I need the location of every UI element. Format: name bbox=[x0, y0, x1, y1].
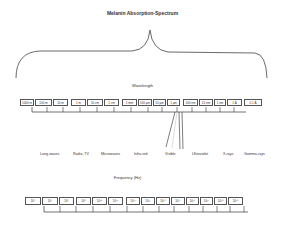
frequency-cell: 10¹³ bbox=[141, 197, 155, 205]
band-label: Radio, TV bbox=[73, 152, 89, 156]
frequency-cell: 10¹⁸ bbox=[214, 197, 227, 205]
frequency-cell: 10⁸ bbox=[76, 197, 91, 205]
band-label: Ultraviolet bbox=[192, 152, 208, 156]
wavelength-scale: 1000 m 100 m 10 m 1 m 10 cm 1 cm 1 mm 10… bbox=[20, 99, 263, 106]
band-label: X-rays bbox=[223, 152, 233, 156]
wavelength-cell: 0.1 Å bbox=[244, 99, 262, 106]
frequency-cell: 10¹¹ bbox=[108, 197, 123, 205]
frequency-cell: 10⁴ bbox=[25, 197, 41, 205]
band-label: Visible bbox=[165, 152, 176, 156]
brace-and-connectors bbox=[0, 0, 285, 230]
wavelength-cell: 1 Å bbox=[227, 99, 242, 106]
frequency-label: Frequency (Hz) bbox=[0, 175, 255, 180]
wavelength-cell: 1 μm bbox=[167, 99, 180, 106]
wavelength-cell: 1000 m bbox=[20, 99, 34, 106]
wavelength-cell: 1 m bbox=[71, 99, 86, 106]
frequency-cell: 10¹⁹ bbox=[228, 197, 243, 205]
frequency-cell: 10¹⁰ bbox=[92, 197, 107, 205]
wavelength-cell: 1 mm bbox=[122, 99, 137, 106]
frequency-cell: 10⁵ bbox=[42, 197, 58, 205]
frequency-cell: 10⁶ bbox=[59, 197, 74, 205]
wavelength-cell: 1 nm bbox=[214, 99, 226, 106]
frequency-cell: 10¹⁵ bbox=[171, 197, 185, 205]
frequency-cell: 10¹⁶ bbox=[186, 197, 199, 205]
wavelength-cell: 1 cm bbox=[104, 99, 119, 106]
frequency-cell: 10¹² bbox=[126, 197, 140, 205]
band-label: Infra-red bbox=[134, 152, 148, 156]
wavelength-cell: 10 cm bbox=[87, 99, 103, 106]
wavelength-cell: 10 nm bbox=[199, 99, 213, 106]
diagram-title: Melanin Absorption-Spectrum bbox=[0, 10, 285, 16]
band-label: Microwaves bbox=[101, 152, 120, 156]
band-label: Gamma-rays bbox=[244, 152, 265, 156]
band-label: Long-waves bbox=[40, 152, 59, 156]
wavelength-cell: 100 μm bbox=[138, 99, 152, 106]
frequency-scale: 10⁴ 10⁵ 10⁶ 10⁸ 10¹⁰ 10¹¹ 10¹² 10¹³ 10¹⁴… bbox=[25, 197, 244, 205]
wavelength-cell: 100 m bbox=[35, 99, 52, 106]
wavelength-label: Wavelength bbox=[0, 83, 285, 88]
wavelength-cell: 100 nm bbox=[183, 99, 198, 106]
wavelength-cell: 10 m bbox=[53, 99, 68, 106]
wavelength-cell: 10 μm bbox=[153, 99, 166, 106]
frequency-cell: 10¹⁴ bbox=[156, 197, 170, 205]
frequency-cell: 10¹⁷ bbox=[200, 197, 213, 205]
